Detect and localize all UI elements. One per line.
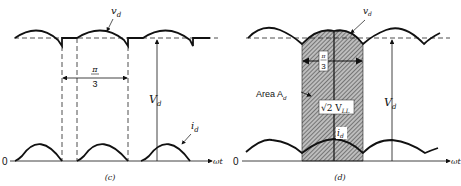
interval-den: 3 [321,62,326,71]
area-label: Area Ad [256,89,287,101]
vd-leader [107,19,113,31]
id-label: id [191,120,199,134]
id-waveform [15,144,190,161]
id-leader [182,134,191,144]
panel-d: π 3 Area Ad √2 VLL id vd Vd 0 ωt (d) [233,6,461,182]
origin-label: 0 [2,156,8,167]
interval-den: 3 [92,79,97,89]
diagram-canvas: π 3 Vd vd id 0 ωt (c) π 3 [0,0,461,186]
shaded-area [302,31,363,161]
axis-label: ωt [213,157,224,166]
interval-num: π [91,65,98,74]
vd-label: vd [363,6,372,17]
caption-d: (d) [334,173,345,182]
caption-c: (c) [105,173,116,182]
vd-average-label: Vd [384,96,397,111]
origin-label: 0 [233,156,239,167]
vd-leader [351,20,365,33]
axis-label: ωt [451,157,461,166]
vd-average-label: Vd [149,93,162,108]
vd-label: vd [111,5,122,19]
panel-c: π 3 Vd vd id 0 ωt (c) [2,5,224,182]
